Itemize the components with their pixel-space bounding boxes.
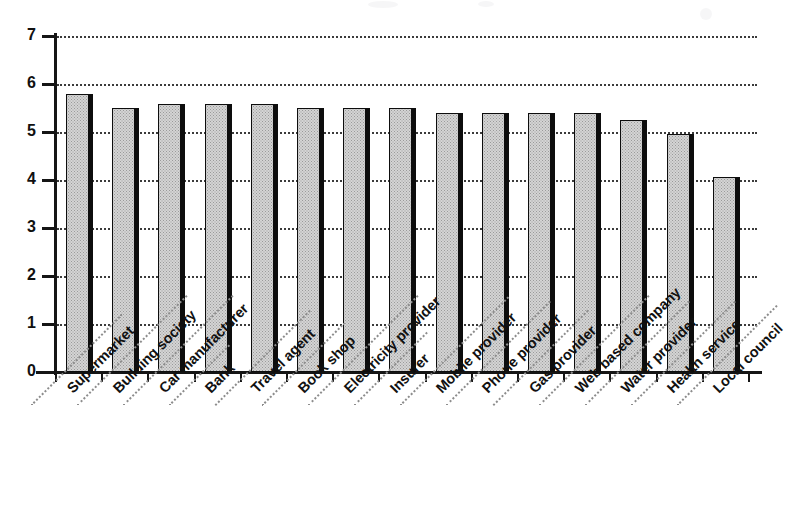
y-axis-tick-label: 6 xyxy=(14,75,36,91)
scan-artifact xyxy=(368,1,398,8)
bar-chart: 01234567 SupermarketBuilding societyCar … xyxy=(0,0,787,514)
y-axis-tick-label: 5 xyxy=(14,123,36,139)
y-axis-tick-label: 1 xyxy=(14,315,36,331)
y-axis-tick-label: 3 xyxy=(14,219,36,235)
scan-artifact xyxy=(700,8,712,20)
bar xyxy=(436,113,459,372)
y-axis-tick-label: 7 xyxy=(14,27,36,43)
y-axis-tick-label: 4 xyxy=(14,171,36,187)
bar xyxy=(251,104,274,372)
bar xyxy=(66,94,89,372)
x-axis-labels: SupermarketBuilding societyCar manufactu… xyxy=(0,374,787,514)
scan-artifact xyxy=(478,1,494,7)
y-axis-tick-label: 2 xyxy=(14,267,36,283)
